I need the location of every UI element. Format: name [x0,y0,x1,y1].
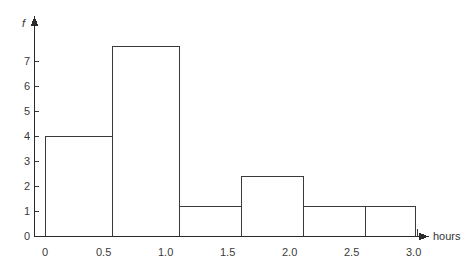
histogram-bar [113,47,180,237]
x-tick-label: 3.0 [406,247,421,258]
x-tick-label: 0.5 [96,247,111,258]
y-tick-label: 0 [14,231,30,242]
x-tick-label: 1.5 [220,247,235,258]
y-tick-label: 4 [14,131,30,142]
y-axis [31,16,39,237]
histogram-bar [242,177,304,237]
histogram-bar [366,207,416,237]
x-axis-label: hours [433,231,461,242]
y-tick-label: 6 [14,81,30,92]
y-tick-label: 5 [14,106,30,117]
y-tick-label: 2 [14,181,30,192]
x-tick-label: 2.0 [282,247,297,258]
histogram-plot [0,0,471,270]
histogram-bar [180,207,242,237]
y-tick-label: 1 [14,206,30,217]
histogram-bars [46,47,416,237]
x-tick-label: 1.0 [158,247,173,258]
histogram-figure: f hours 0 1 2 3 4 5 6 7 0 0.5 1.0 1.5 2.… [0,0,471,270]
y-tick-label: 3 [14,156,30,167]
y-axis-label: f [22,18,25,29]
x-tick-label: 0 [42,247,48,258]
x-tick-label: 2.5 [344,247,359,258]
y-tick-label: 7 [14,56,30,67]
histogram-bar [304,207,366,237]
histogram-bar [46,137,113,237]
